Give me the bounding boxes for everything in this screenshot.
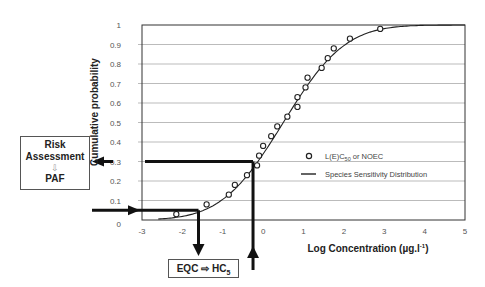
legend: L(E)C50 or NOEC Species Sensitivity Dist… — [301, 152, 427, 179]
hc-subscript: 5 — [226, 269, 230, 276]
x-tick-label: -3 — [138, 227, 146, 236]
legend-points-label: L(E)C50 or NOEC — [325, 152, 384, 162]
risk-assessment-box: Risk Assessment ⇩ PAF — [20, 136, 90, 190]
x-tick-label: 3 — [382, 227, 387, 236]
legend-point-marker — [306, 153, 311, 158]
x-tick-label: 1 — [301, 227, 306, 236]
y-tick-label: 0.9 — [110, 41, 122, 50]
y-tick-label: 0.6 — [110, 99, 122, 108]
data-point — [295, 104, 300, 109]
y-tick-label: 0.8 — [110, 60, 122, 69]
data-point — [256, 153, 261, 158]
eqc-hc-label: EQC ⇨ HC — [177, 263, 227, 274]
data-point — [378, 26, 383, 31]
x-tick-label: 4 — [422, 227, 427, 236]
risk-label: Risk — [21, 139, 89, 151]
hc5-annotation — [92, 205, 205, 256]
x-axis-label: Log Concentration (µg.l-1) — [307, 243, 428, 254]
x-tick-label: 5 — [463, 227, 468, 236]
y-tick-label: 0.4 — [110, 138, 122, 147]
data-point — [254, 163, 259, 168]
legend-curve-label: Species Sensitivity Distribution — [325, 170, 427, 179]
data-point — [295, 95, 300, 100]
data-point — [244, 173, 249, 178]
data-points — [174, 26, 383, 216]
data-point — [325, 56, 330, 61]
y-tick-label: 0.1 — [110, 197, 122, 206]
data-point — [261, 143, 266, 148]
paf-label: PAF — [21, 173, 89, 185]
eqc-hc5-box: EQC ⇨ HC5 — [168, 259, 239, 278]
x-tick-label: -1 — [219, 227, 227, 236]
x-tick-label: 2 — [342, 227, 347, 236]
data-point — [305, 75, 310, 80]
x-tick-label: -2 — [179, 227, 187, 236]
assessment-label: Assessment — [21, 151, 89, 163]
x-axis-ticks: -3-2-1012345 — [138, 227, 467, 236]
data-point — [303, 85, 308, 90]
x-tick-label: 0 — [261, 227, 266, 236]
y-tick-label: 0.7 — [110, 80, 122, 89]
data-point — [269, 134, 274, 139]
data-point — [226, 192, 231, 197]
y-tick-label: 0 — [117, 220, 122, 229]
y-tick-label: 1 — [117, 21, 122, 30]
y-axis-ticks: 00.10.20.30.40.50.60.70.80.91 — [110, 21, 122, 229]
data-point — [331, 46, 336, 51]
data-point — [232, 182, 237, 187]
data-point — [347, 36, 352, 41]
y-tick-label: 0.2 — [110, 177, 122, 186]
data-point — [174, 212, 179, 217]
data-point — [275, 124, 280, 129]
data-point — [204, 202, 209, 207]
data-point — [285, 114, 290, 119]
down-arrow-icon: ⇩ — [21, 163, 89, 173]
data-point — [319, 65, 324, 70]
y-axis-label: Cumulative probability — [89, 58, 100, 166]
y-tick-label: 0.5 — [110, 119, 122, 128]
